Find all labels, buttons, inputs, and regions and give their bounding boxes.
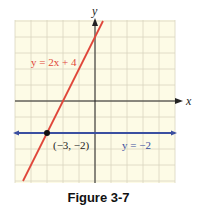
graph: x y y = 2x + 4 (−3, −2) y = −2 <box>0 0 197 190</box>
intersection-point <box>44 130 50 136</box>
point-label: (−3, −2) <box>53 139 90 152</box>
x-axis-arrow-icon <box>175 98 183 104</box>
line1-label: y = 2x + 4 <box>31 56 77 68</box>
figure-caption: Figure 3-7 <box>0 190 197 205</box>
x-axis-label: x <box>185 94 192 108</box>
y-axis-label: y <box>91 4 98 18</box>
line2-label: y = −2 <box>122 139 151 151</box>
